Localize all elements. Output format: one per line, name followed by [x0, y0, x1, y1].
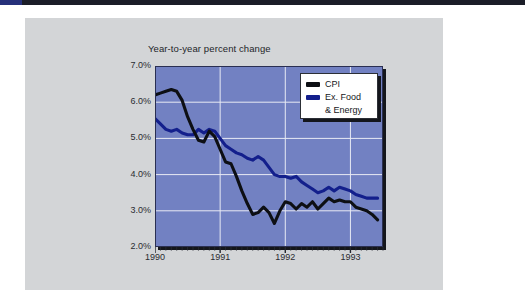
chart-legend: CPI Ex. Food & Energy [300, 73, 378, 119]
legend-item-cpi: CPI [306, 78, 373, 91]
legend-item-ex-food-energy: Ex. Food [306, 91, 373, 104]
page-root: Year-to-year percent change 7.0%6.0%5.0%… [0, 0, 525, 307]
legend-swatch-cpi [306, 82, 320, 87]
legend-label-cpi: CPI [325, 78, 340, 91]
x-axis-tick-label: 1992 [275, 252, 295, 262]
legend-label-ex-food-energy-line2: & Energy [306, 104, 373, 117]
y-axis-tick-label: 2.0% [130, 241, 151, 251]
x-axis-tick-label: 1993 [340, 252, 360, 262]
y-axis-tick-label: 7.0% [130, 60, 151, 70]
y-axis-tick-label: 5.0% [130, 132, 151, 142]
y-axis-tick-label: 6.0% [130, 96, 151, 106]
x-axis-tick-label: 1990 [145, 252, 165, 262]
x-axis-tick-label: 1991 [210, 252, 230, 262]
legend-swatch-ex-food-energy [306, 95, 320, 100]
y-axis-tick-label: 4.0% [130, 169, 151, 179]
x-axis-labels: 1990199119921993 [0, 252, 525, 268]
chart-subtitle: Year-to-year percent change [148, 43, 271, 54]
top-scan-bar-accent [0, 0, 22, 5]
y-axis-tick-label: 3.0% [130, 205, 151, 215]
legend-label-ex-food-energy: Ex. Food [325, 91, 361, 104]
top-scan-bar [0, 0, 525, 5]
